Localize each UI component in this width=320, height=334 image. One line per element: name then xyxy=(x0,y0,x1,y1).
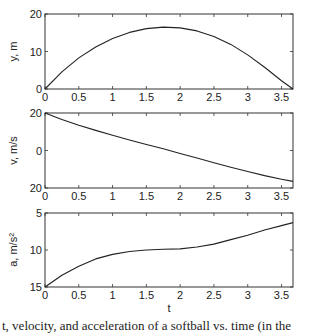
x-tick-label: 0.5 xyxy=(71,190,86,202)
x-tick-label: 1.5 xyxy=(139,289,154,301)
x-tick-label: 0 xyxy=(42,190,48,202)
y-tick-label: 0 xyxy=(36,83,42,95)
y-tick-label: 5 xyxy=(36,207,42,219)
x-tick-label: 1 xyxy=(110,91,116,103)
x-tick-label: 2.5 xyxy=(206,289,221,301)
x-tick-label: 3 xyxy=(245,91,251,103)
x-tick-label: 1.5 xyxy=(139,190,154,202)
figure: 00.511.522.533.520100y, m00.511.522.533.… xyxy=(0,0,305,318)
height-subplot: 00.511.522.533.520100y, m xyxy=(7,8,293,103)
axes-box xyxy=(45,213,293,287)
y-tick-label: 10 xyxy=(30,244,42,256)
x-tick-label: 0 xyxy=(42,91,48,103)
axes-box xyxy=(45,14,293,89)
y-tick-label: 20 xyxy=(30,8,42,20)
x-tick-label: 2 xyxy=(177,289,183,301)
x-tick-label: 0 xyxy=(42,289,48,301)
x-axis-label: t xyxy=(167,302,170,314)
x-tick-label: 3.5 xyxy=(274,190,289,202)
y-tick-label: 15 xyxy=(30,281,42,293)
height-curve xyxy=(45,27,293,89)
x-tick-label: 0.5 xyxy=(71,289,86,301)
x-tick-label: 0.5 xyxy=(71,91,86,103)
velocity-subplot: 00.511.522.533.520020v, m/s xyxy=(7,107,293,202)
y-axis-label: y, m xyxy=(7,42,19,62)
x-tick-label: 2 xyxy=(177,91,183,103)
x-tick-label: 1 xyxy=(110,190,116,202)
x-tick-label: 2.5 xyxy=(206,91,221,103)
x-tick-label: 3 xyxy=(245,190,251,202)
x-tick-label: 3 xyxy=(245,289,251,301)
acceleration-subplot: 00.511.522.533.551015a, m/s²t xyxy=(7,207,293,314)
y-axis-label: v, m/s xyxy=(7,136,19,165)
x-tick-label: 3.5 xyxy=(274,91,289,103)
x-tick-label: 2 xyxy=(177,190,183,202)
y-tick-label: 20 xyxy=(30,107,42,119)
y-axis-label: a, m/s² xyxy=(7,233,19,267)
figure-caption: t, velocity, and acceleration of a softb… xyxy=(2,318,320,334)
y-tick-label: 20 xyxy=(30,182,42,194)
x-tick-label: 1.5 xyxy=(139,91,154,103)
x-tick-label: 2.5 xyxy=(206,190,221,202)
acceleration-curve xyxy=(45,223,293,287)
velocity-curve xyxy=(45,113,293,181)
x-tick-label: 3.5 xyxy=(274,289,289,301)
x-tick-label: 1 xyxy=(110,289,116,301)
y-tick-label: 10 xyxy=(30,46,42,58)
y-tick-label: 0 xyxy=(36,145,42,157)
